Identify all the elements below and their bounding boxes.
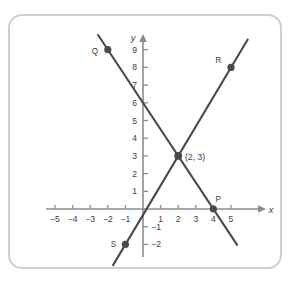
- x-tick-label: 2: [176, 214, 181, 224]
- intersection-coordinate-label: (2, 3): [185, 152, 205, 162]
- data-point-P: [210, 205, 217, 212]
- y-tick-label: 3: [132, 151, 137, 161]
- x-tick-label: −1: [120, 214, 130, 224]
- graph-svg: x y −5 −4 −3 −2 −1 1: [0, 0, 298, 281]
- y-tick-labels: 1 2 3 4 5 6 7 8 9 −1 −2: [132, 45, 161, 250]
- x-tick-label: −5: [50, 214, 60, 224]
- y-tick-label: 2: [132, 169, 137, 179]
- data-point-intersection: [174, 152, 182, 160]
- y-tick-label: 9: [132, 45, 137, 55]
- point-label-Q: Q: [92, 47, 98, 56]
- coordinate-plane-graph: x y −5 −4 −3 −2 −1 1: [0, 0, 298, 281]
- y-tick-label: 8: [132, 62, 137, 72]
- x-axis-label: x: [268, 204, 274, 215]
- data-point-R: [227, 64, 234, 71]
- point-label-P: P: [215, 195, 221, 204]
- x-tick-label: 5: [229, 214, 234, 224]
- y-tick-label: 1: [132, 186, 137, 196]
- y-tick-label: 5: [132, 116, 137, 126]
- line-through-Q-and-P: [98, 35, 237, 245]
- y-tick-label: −1: [151, 222, 161, 232]
- y-tick-label: −2: [151, 239, 161, 249]
- y-axis-label: y: [130, 32, 137, 43]
- data-point-S: [122, 241, 129, 248]
- x-axis-arrow-icon: [258, 205, 266, 213]
- point-label-S: S: [111, 240, 117, 249]
- y-tick-label: 6: [132, 98, 137, 108]
- x-tick-label: −4: [68, 214, 78, 224]
- point-label-R: R: [216, 56, 222, 65]
- x-tick-label: −3: [85, 214, 95, 224]
- x-tick-label: 4: [211, 214, 216, 224]
- x-tick-label: −2: [103, 214, 113, 224]
- y-tick-label: 4: [132, 133, 137, 143]
- data-point-Q: [104, 46, 111, 53]
- y-axis-arrow-icon: [139, 34, 147, 42]
- x-tick-label: 3: [193, 214, 198, 224]
